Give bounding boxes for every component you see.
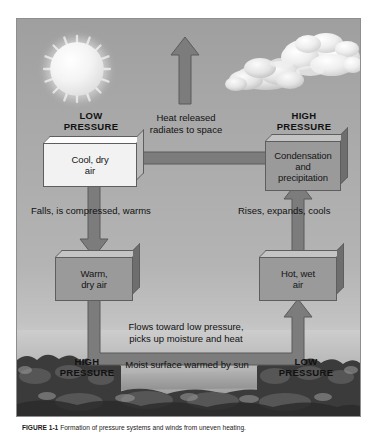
box-line-1: Hot, wet	[281, 268, 315, 279]
box-top-face	[259, 250, 344, 257]
box-line-1: Warm,	[80, 268, 107, 279]
box-line-1: Condensation	[274, 150, 331, 161]
cloud-icon	[222, 27, 360, 99]
box-hot-wet-air: Hot, wet air	[259, 257, 337, 301]
box-label-hot-wet-air: Hot, wet air	[278, 268, 318, 290]
pressure-line-2: PRESSURE	[279, 367, 334, 378]
box-label-condensation-precipitation: Condensation and precipitation	[271, 150, 334, 183]
box-line-2: air	[85, 165, 95, 176]
caption-label: FIGURE 1-1	[22, 424, 58, 431]
pressure-line-1: LOW	[79, 110, 102, 121]
box-top-face	[265, 134, 348, 141]
arrow-hot-to-condensation	[283, 179, 313, 259]
pressure-line-2: PRESSURE	[277, 121, 332, 132]
pressure-line-1: HIGH	[292, 110, 317, 121]
pressure-line-2: PRESSURE	[64, 121, 119, 132]
box-warm-dry-air: Warm, dry air	[55, 257, 133, 301]
flow-line-1: Rises, expands, cools	[238, 205, 330, 216]
box-label-warm-dry-air: Warm, dry air	[77, 268, 110, 290]
box-line-3: precipitation	[278, 172, 328, 183]
label-low-pressure-top-left: LOW PRESSURE	[43, 110, 139, 132]
sun-disc	[50, 42, 104, 96]
box-side-face	[133, 243, 140, 294]
label-falls-compressed-warms: Falls, is compressed, warms	[31, 205, 151, 217]
box-condensation-precipitation: Condensation and precipitation	[265, 141, 341, 191]
arrow-to-space	[170, 35, 200, 105]
sun-icon	[41, 33, 113, 105]
flow-line-2: picks up moisture and heat	[129, 333, 243, 344]
flow-line-2: radiates to space	[150, 124, 222, 135]
box-side-face	[341, 127, 348, 184]
label-flows-toward-low-pressure: Flows toward low pressure, picks up mois…	[105, 321, 267, 344]
pressure-line-1: LOW	[294, 356, 317, 367]
arrow-condensation-to-cool	[121, 143, 281, 173]
figure-page: Cool, dry air Condensation and precipita…	[0, 0, 375, 437]
box-line-1: Cool, dry	[71, 154, 108, 165]
figure-caption: FIGURE 1-1 Formation of pressure systems…	[22, 424, 362, 432]
diagram-figure: Cool, dry air Condensation and precipita…	[16, 18, 361, 417]
label-high-pressure-top-right: HIGH PRESSURE	[255, 110, 353, 132]
flow-line-1: Falls, is compressed, warms	[31, 205, 151, 216]
pressure-line-2: PRESSURE	[60, 367, 115, 378]
label-heat-released: Heat released radiates to space	[127, 112, 245, 135]
box-cool-dry-air: Cool, dry air	[43, 143, 137, 187]
pressure-line-1: HIGH	[75, 356, 100, 367]
label-moist-surface-warmed: Moist surface warmed by sun	[111, 359, 263, 371]
box-top-face	[55, 250, 140, 257]
box-side-face	[337, 243, 344, 294]
caption-text: Formation of pressure systems and winds …	[60, 424, 246, 431]
arrow-cool-to-warm	[79, 179, 109, 259]
box-label-cool-dry-air: Cool, dry air	[68, 154, 111, 176]
label-low-pressure-bottom-right: LOW PRESSURE	[257, 356, 355, 378]
box-top-face	[43, 136, 144, 143]
box-line-2: and	[295, 161, 311, 172]
box-line-2: air	[293, 279, 303, 290]
box-line-2: dry air	[81, 279, 107, 290]
flow-line-1: Heat released	[156, 112, 215, 123]
flow-line-1: Moist surface warmed by sun	[125, 359, 249, 370]
box-side-face	[137, 129, 144, 180]
flow-line-1: Flows toward low pressure,	[128, 321, 243, 332]
label-rises-expands-cools: Rises, expands, cools	[238, 205, 330, 217]
